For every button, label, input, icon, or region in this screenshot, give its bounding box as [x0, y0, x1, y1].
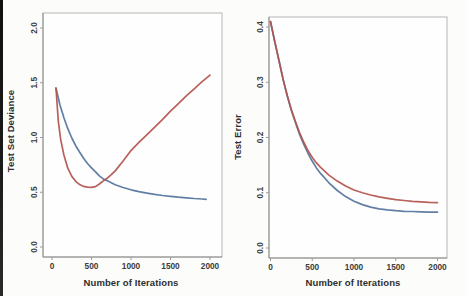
right-y-axis-title: Test Error — [232, 114, 243, 160]
x-tick-label: 2000 — [201, 261, 220, 271]
x-tick-label: 1500 — [387, 262, 406, 272]
left-chart: 05001000150020000.00.51.01.52.0 — [29, 13, 222, 271]
left-y-axis-title: Test Set Deviance — [5, 90, 16, 172]
y-tick-label: 2.0 — [29, 22, 39, 34]
photo-edge-artifact — [0, 0, 3, 296]
y-tick-label: 1.5 — [29, 77, 39, 89]
y-tick-label: 0.1 — [255, 187, 265, 199]
y-tick-label: 0.0 — [255, 242, 265, 254]
x-tick-label: 1000 — [345, 262, 364, 272]
y-tick-label: 0.4 — [255, 21, 265, 33]
x-tick-label: 1500 — [161, 261, 180, 271]
y-tick-label: 0.3 — [255, 76, 265, 88]
y-tick-label: 0.0 — [29, 241, 39, 253]
right-x-axis-title: Number of Iterations — [306, 277, 401, 288]
x-tick-label: 500 — [305, 262, 319, 272]
x-tick-label: 0 — [268, 262, 273, 272]
x-tick-label: 500 — [85, 261, 99, 271]
x-tick-label: 0 — [50, 261, 55, 271]
plot-frame — [269, 17, 447, 258]
y-tick-label: 0.5 — [29, 186, 39, 198]
y-tick-label: 0.2 — [255, 131, 265, 143]
right-chart: 05001000150020000.00.10.20.30.4 — [255, 17, 447, 272]
x-tick-label: 1000 — [122, 261, 141, 271]
y-tick-label: 1.0 — [29, 131, 39, 143]
figure: 05001000150020000.00.51.01.52.0050010001… — [0, 0, 468, 296]
left-x-axis-title: Number of Iterations — [84, 277, 179, 288]
x-tick-label: 2000 — [428, 262, 447, 272]
